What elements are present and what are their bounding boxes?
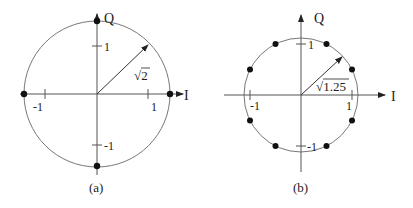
point-b (324, 143, 330, 149)
i-axis-label-a: I (184, 88, 189, 103)
q-axis-label-a: Q (104, 11, 114, 26)
constellation-diagram: Q I -1 1 1 -1 √2 (a) Q I -1 1 1 - (0, 0, 413, 208)
point-a (21, 91, 27, 97)
point-a (94, 18, 100, 24)
point-b (273, 143, 279, 149)
tick-label-i-neg1-a: -1 (33, 100, 43, 114)
point-b (324, 41, 330, 47)
i-axis-label-b: I (391, 89, 396, 104)
point-b (247, 67, 253, 73)
radius-label-a: √2 (134, 68, 148, 83)
caption-a: (a) (89, 180, 103, 195)
point-b (247, 118, 253, 124)
caption-b: (b) (293, 180, 308, 195)
point-b (349, 118, 355, 124)
point-b (273, 41, 279, 47)
tick-label-q-pos1-b: 1 (308, 38, 314, 52)
tick-label-q-neg1-b: -1 (307, 140, 317, 154)
tick-label-q-neg1-a: -1 (104, 139, 114, 153)
tick-label-i-pos1-b: 1 (346, 99, 352, 113)
panel-a: Q I -1 1 1 -1 √2 (a) (20, 11, 189, 195)
point-b (349, 67, 355, 73)
point-a (94, 163, 100, 169)
panel-b: Q I -1 1 1 -1 √1.25 (b) (224, 11, 396, 195)
point-a (167, 91, 173, 97)
tick-label-q-pos1-a: 1 (104, 40, 110, 54)
tick-label-i-neg1-b: -1 (250, 99, 260, 113)
tick-label-i-pos1-a: 1 (151, 100, 157, 114)
q-axis-label-b: Q (314, 11, 324, 26)
radius-label-b: √1.25 (316, 79, 346, 94)
